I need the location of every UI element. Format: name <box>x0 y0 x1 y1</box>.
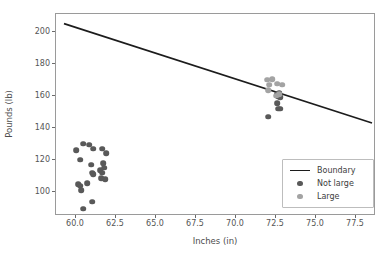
y-tick-label: 200 <box>35 26 50 35</box>
data-point <box>73 147 79 153</box>
data-point <box>279 82 285 88</box>
data-point <box>274 100 280 106</box>
x-tick-mark <box>115 215 116 218</box>
data-point <box>273 93 279 99</box>
data-point <box>80 206 86 212</box>
x-tick-mark <box>155 215 156 218</box>
x-tick-mark <box>355 215 356 218</box>
x-tick-mark <box>275 215 276 218</box>
x-tick-label: 72.5 <box>266 219 284 228</box>
legend-dot-swatch <box>288 190 312 203</box>
x-tick-mark <box>75 215 76 218</box>
legend-item[interactable]: Boundary <box>288 164 368 177</box>
x-tick-label: 62.5 <box>106 219 124 228</box>
legend-line-swatch <box>288 164 312 177</box>
x-tick-label: 65.0 <box>146 219 164 228</box>
y-tick-label: 160 <box>35 90 50 99</box>
y-tick-label: 180 <box>35 58 50 67</box>
legend-dot-swatch <box>288 177 312 190</box>
data-point <box>84 180 90 186</box>
data-point <box>77 157 83 163</box>
data-point <box>80 141 86 147</box>
data-point <box>88 162 94 168</box>
data-point <box>78 188 84 194</box>
legend-item[interactable]: Not large <box>288 177 368 190</box>
chart-legend: BoundaryNot largeLarge <box>282 159 374 208</box>
scatter-plot-figure: Pounds (lb) Inches (in) 1001201401601802… <box>0 0 383 262</box>
y-axis-label: Pounds (lb) <box>4 90 14 138</box>
data-point <box>90 146 96 152</box>
data-point <box>102 176 108 182</box>
x-tick-label: 67.5 <box>186 219 204 228</box>
legend-label: Not large <box>317 179 354 188</box>
x-tick-mark <box>195 215 196 218</box>
data-point <box>265 114 271 120</box>
data-point <box>89 199 95 205</box>
data-point <box>265 87 271 93</box>
data-point <box>90 172 96 178</box>
x-tick-mark <box>315 215 316 218</box>
x-axis-label: Inches (in) <box>193 236 238 246</box>
legend-label: Large <box>317 192 340 201</box>
data-point <box>277 106 283 112</box>
legend-label: Boundary <box>317 166 356 175</box>
y-tick-label: 120 <box>35 154 50 163</box>
y-tick-label: 140 <box>35 122 50 131</box>
x-tick-label: 70.0 <box>226 219 244 228</box>
data-point <box>103 151 109 157</box>
x-tick-mark <box>235 215 236 218</box>
x-tick-label: 77.5 <box>346 219 364 228</box>
x-tick-label: 75.0 <box>306 219 324 228</box>
legend-item[interactable]: Large <box>288 190 368 203</box>
x-tick-label: 60.0 <box>66 219 84 228</box>
y-tick-label: 100 <box>35 186 50 195</box>
